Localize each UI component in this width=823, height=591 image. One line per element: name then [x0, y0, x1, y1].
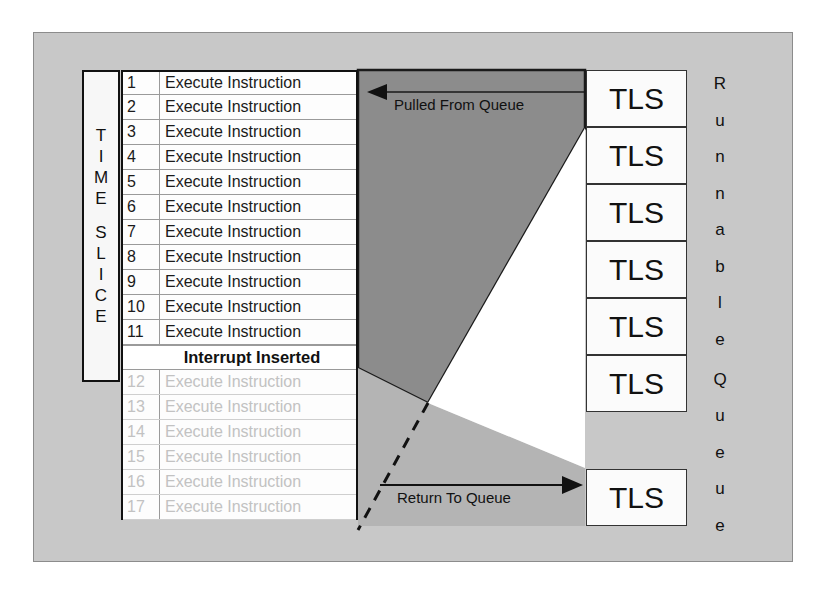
runnable-queue-label: R u n n a b l e Q u e u e [700, 66, 740, 544]
row-label: Execute Instruction [160, 145, 356, 169]
row-number: 10 [123, 295, 160, 319]
row-number: 9 [123, 270, 160, 294]
row-label: Execute Instruction [160, 195, 356, 219]
tls-block[interactable]: TLS [586, 184, 687, 241]
rq-char: n [715, 139, 724, 176]
row-number: 5 [123, 170, 160, 194]
time-slice-word-time: T I M E [94, 125, 108, 209]
table-row[interactable]: 14 Execute Instruction [123, 420, 356, 445]
tls-block[interactable]: TLS [586, 298, 687, 355]
table-row[interactable]: 8 Execute Instruction [123, 245, 356, 270]
table-row[interactable]: 11 Execute Instruction [123, 320, 356, 345]
row-label: Interrupt Inserted [160, 346, 356, 369]
diagram-canvas: T I M E S L I C E 1 Execute Instruction … [0, 0, 823, 591]
table-row[interactable]: 4 Execute Instruction [123, 145, 356, 170]
row-label: Execute Instruction [160, 370, 356, 394]
table-row[interactable]: 7 Execute Instruction [123, 220, 356, 245]
row-label: Execute Instruction [160, 420, 356, 444]
row-number: 13 [123, 395, 160, 419]
ts-char: L [96, 243, 105, 264]
row-label: Execute Instruction [160, 245, 356, 269]
rq-char: b [715, 249, 724, 286]
row-number: 12 [123, 370, 160, 394]
table-row[interactable]: 16 Execute Instruction [123, 470, 356, 495]
row-number: 4 [123, 145, 160, 169]
tls-block[interactable]: TLS [586, 355, 687, 412]
tls-block-returning[interactable]: TLS [586, 469, 687, 526]
row-label: Execute Instruction [160, 320, 356, 344]
row-number [123, 346, 160, 369]
row-number: 14 [123, 420, 160, 444]
time-slice-label: T I M E S L I C E [82, 70, 120, 382]
row-number: 16 [123, 470, 160, 494]
row-number: 15 [123, 445, 160, 469]
table-row[interactable]: 12 Execute Instruction [123, 370, 356, 395]
rq-char: a [715, 212, 724, 249]
tls-block[interactable]: TLS [586, 127, 687, 184]
ts-char: I [99, 264, 104, 285]
table-row[interactable]: 5 Execute Instruction [123, 170, 356, 195]
row-label: Execute Instruction [160, 95, 356, 119]
table-row[interactable]: 10 Execute Instruction [123, 295, 356, 320]
rq-char: Q [713, 362, 726, 399]
rq-char: n [715, 176, 724, 213]
return-to-queue-label: Return To Queue [397, 489, 511, 506]
rq-char: R [714, 66, 726, 103]
table-row[interactable]: 17 Execute Instruction [123, 495, 356, 520]
rq-char: u [715, 471, 724, 508]
row-label: Execute Instruction [160, 395, 356, 419]
row-label: Execute Instruction [160, 170, 356, 194]
rq-char: e [715, 508, 724, 545]
rq-char: l [718, 285, 722, 322]
row-number: 8 [123, 245, 160, 269]
time-slice-word-slice: S L I C E [95, 222, 107, 327]
tls-block[interactable]: TLS [586, 70, 687, 127]
table-row[interactable]: 3 Execute Instruction [123, 120, 356, 145]
row-number: 1 [123, 72, 160, 94]
row-number: 3 [123, 120, 160, 144]
row-number: 7 [123, 220, 160, 244]
row-label: Execute Instruction [160, 470, 356, 494]
ts-char: I [99, 146, 104, 167]
row-label: Execute Instruction [160, 72, 356, 94]
row-number: 6 [123, 195, 160, 219]
row-number: 17 [123, 495, 160, 519]
tls-block[interactable]: TLS [586, 241, 687, 298]
table-row[interactable]: 6 Execute Instruction [123, 195, 356, 220]
table-row[interactable]: 1 Execute Instruction [123, 70, 356, 95]
rq-char: u [715, 398, 724, 435]
table-row[interactable]: 15 Execute Instruction [123, 445, 356, 470]
interrupt-row[interactable]: Interrupt Inserted [123, 345, 356, 370]
row-label: Execute Instruction [160, 220, 356, 244]
row-number: 2 [123, 95, 160, 119]
row-label: Execute Instruction [160, 295, 356, 319]
row-label: Execute Instruction [160, 495, 356, 519]
row-number: 11 [123, 320, 160, 344]
ts-char: E [95, 188, 106, 209]
row-label: Execute Instruction [160, 120, 356, 144]
rq-char: e [715, 435, 724, 472]
ts-char: T [96, 125, 106, 146]
instruction-table: 1 Execute Instruction 2 Execute Instruct… [121, 70, 358, 520]
rq-char: u [715, 103, 724, 140]
ts-char: M [94, 167, 108, 188]
ts-char: C [95, 285, 107, 306]
ts-char: E [95, 306, 106, 327]
row-label: Execute Instruction [160, 445, 356, 469]
table-row[interactable]: 13 Execute Instruction [123, 395, 356, 420]
table-row[interactable]: 2 Execute Instruction [123, 95, 356, 120]
row-label: Execute Instruction [160, 270, 356, 294]
table-row[interactable]: 9 Execute Instruction [123, 270, 356, 295]
ts-char: S [95, 222, 106, 243]
pulled-from-queue-label: Pulled From Queue [394, 96, 524, 113]
rq-char: e [715, 322, 724, 359]
